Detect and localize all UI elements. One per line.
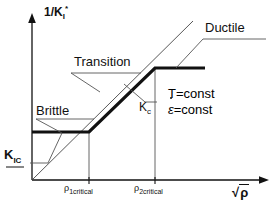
rate-dot-icon xyxy=(170,97,172,99)
fracture-toughness-diagram: 1/KI* √ρ KIC Kc Brittle Transition Ducti… xyxy=(0,0,276,212)
kic-subscript: IC xyxy=(13,156,21,165)
tick-label-rho2-sub: 2critical xyxy=(139,188,163,195)
strain-rate-rest: =const xyxy=(174,102,213,117)
x-axis-label: √ρ xyxy=(232,186,249,199)
region-label-transition: Transition xyxy=(74,55,131,68)
region-label-brittle: Brittle xyxy=(36,104,69,117)
leader-kic xyxy=(30,133,62,163)
conditions-block: T=const ε=const xyxy=(168,86,215,119)
kic-main: K xyxy=(4,147,13,162)
kic-label: KIC xyxy=(4,148,21,165)
tick-label-rho2: ρ2critical xyxy=(134,184,163,195)
strain-rate-symbol: ε xyxy=(168,102,174,118)
condition-strain-rate: ε=const xyxy=(168,102,215,118)
y-axis xyxy=(28,13,36,180)
kc-label: Kc xyxy=(139,101,151,116)
leader-ductile xyxy=(176,39,266,68)
kc-main: K xyxy=(139,100,147,114)
condition-temperature: T=const xyxy=(168,86,215,102)
kc-subscript: c xyxy=(147,107,151,116)
region-label-ductile: Ductile xyxy=(205,21,245,34)
tick-label-rho1: ρ1critical xyxy=(64,184,93,195)
x-axis-label-variable: ρ xyxy=(239,184,249,200)
y-axis-label-main: 1/K xyxy=(44,5,63,19)
y-axis-label-superscript: * xyxy=(65,4,68,13)
y-axis-label-subscript: I xyxy=(63,12,65,21)
strain-rate-epsilon: ε xyxy=(168,102,174,117)
tick-label-rho1-sub: 1critical xyxy=(69,188,93,195)
y-axis-label: 1/KI* xyxy=(44,5,68,21)
